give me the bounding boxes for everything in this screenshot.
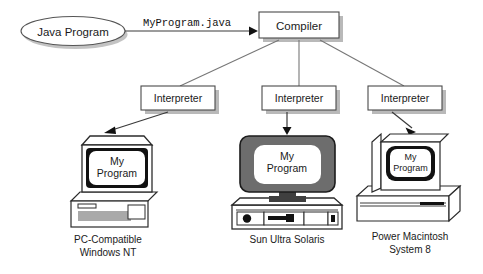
pc-monitor-top xyxy=(82,136,152,145)
mac-drive-slot xyxy=(420,202,444,205)
interpreter-label-1: Interpreter xyxy=(154,92,203,104)
mac-screen-line2: Program xyxy=(393,163,428,173)
pc-case-top xyxy=(71,192,157,201)
pc-screen-line1: My xyxy=(110,155,125,167)
mac-caption-line2: System 8 xyxy=(389,244,431,255)
machine-pc-compatible[interactable]: My Program PC-Compatible Windows NT xyxy=(71,136,157,258)
interpreter-node-1[interactable]: Interpreter xyxy=(141,86,219,114)
interpreter-to-machine-arrows xyxy=(104,112,416,135)
mac-monitor-top xyxy=(381,134,448,142)
mac-screen-line1: My xyxy=(405,152,417,162)
compiler-to-interpreters-connectors xyxy=(180,40,404,86)
sun-screen-line2: Program xyxy=(267,162,308,174)
interpreter-node-3[interactable]: Interpreter xyxy=(368,86,446,114)
interpreter-label-2: Interpreter xyxy=(275,92,324,104)
arrowhead-to-sun xyxy=(283,127,292,135)
machine-power-macintosh[interactable]: My Program Power Macintosh System 8 xyxy=(357,134,460,255)
sun-drive-knob xyxy=(286,214,294,222)
pc-screen-line2: Program xyxy=(97,167,138,179)
sun-power-button[interactable] xyxy=(243,214,251,222)
sun-screen-line1: My xyxy=(280,150,295,162)
sun-caption-line1: Sun Ultra Solaris xyxy=(249,234,324,245)
connector-compiler-interpreter-3 xyxy=(320,40,404,86)
pc-floppy-slot xyxy=(78,204,96,208)
compiler-label: Compiler xyxy=(276,20,322,32)
interpreter-label-3: Interpreter xyxy=(381,92,430,104)
pc-caption-line2: Windows NT xyxy=(80,247,137,258)
machine-sun-ultra[interactable]: My Program Sun Ultra Solaris xyxy=(232,136,342,245)
connector-compiler-interpreter-1 xyxy=(180,40,279,86)
mac-monitor-back xyxy=(372,134,381,192)
mac-caption-line1: Power Macintosh xyxy=(372,231,449,242)
java-platform-independence-diagram: Java Program MyProgram.java Compiler Int… xyxy=(0,0,483,274)
compiler-node[interactable]: Compiler xyxy=(259,12,343,42)
pc-side-panel xyxy=(128,205,145,219)
sun-panel-3 xyxy=(304,212,328,225)
source-to-compiler-edge: MyProgram.java xyxy=(125,17,258,36)
arrowhead-to-pc xyxy=(104,127,116,135)
sun-led xyxy=(331,215,335,222)
java-program-label: Java Program xyxy=(37,26,109,38)
mac-case-front xyxy=(357,196,449,221)
arrowhead-to-compiler xyxy=(249,27,258,36)
java-program-node[interactable]: Java Program xyxy=(21,17,128,50)
interpreter-node-2[interactable]: Interpreter xyxy=(262,86,340,114)
pc-caption-line1: PC-Compatible xyxy=(74,234,142,245)
edge-label-myprogram-java: MyProgram.java xyxy=(143,17,231,29)
pc-drive-panel xyxy=(78,211,131,221)
